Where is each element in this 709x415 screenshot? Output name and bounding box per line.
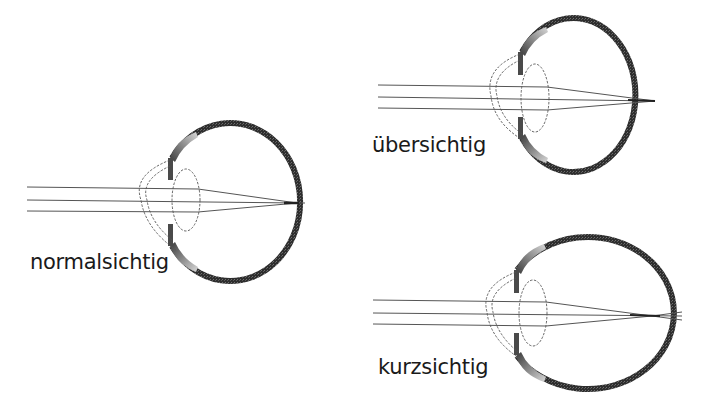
light-rays — [378, 85, 655, 110]
ciliary-body-top — [170, 132, 198, 162]
ciliary-body-top — [516, 244, 546, 274]
label-kurzsichtig: kurzsichtig — [378, 357, 488, 378]
iris-bottom — [168, 224, 173, 246]
iris-top — [168, 158, 173, 180]
sclera — [522, 18, 635, 172]
ciliary-body-top — [520, 27, 548, 56]
ciliary-body-bottom — [170, 242, 198, 272]
iris-bottom — [518, 117, 523, 139]
focal-point — [630, 315, 660, 316]
label-normalsichtig: normalsichtig — [30, 252, 169, 273]
focal-point — [628, 100, 655, 101]
light-rays — [373, 300, 682, 326]
ciliary-body-bottom — [516, 352, 546, 382]
lens — [172, 169, 200, 231]
iris-top — [518, 52, 523, 75]
sclera — [517, 237, 674, 389]
iris-bottom — [514, 333, 519, 355]
ciliary-body-bottom — [520, 134, 548, 163]
lens — [519, 280, 547, 346]
label-uebersichtig: übersichtig — [372, 135, 486, 156]
lens — [521, 64, 549, 132]
eye-refraction-diagram: normalsichtig übersichtig kurzsichtig — [0, 0, 709, 415]
light-rays — [27, 187, 305, 212]
iris-top — [514, 270, 519, 293]
